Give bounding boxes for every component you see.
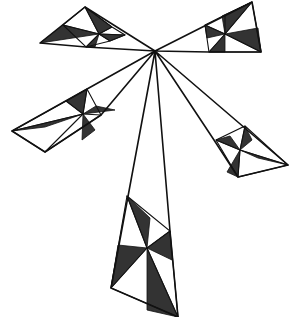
shaded-triangle bbox=[40, 25, 99, 43]
pinwheel-line bbox=[12, 114, 83, 131]
blade-right bbox=[155, 51, 288, 177]
shaded-triangle bbox=[83, 106, 115, 114]
blade-top-right bbox=[155, 2, 261, 52]
blade-left bbox=[12, 51, 155, 152]
pinwheel-line bbox=[240, 150, 288, 165]
blade-outline bbox=[155, 51, 288, 177]
pinwheel-line bbox=[83, 114, 101, 115]
blade-top-left bbox=[40, 7, 155, 51]
blades bbox=[12, 2, 288, 317]
pinwheel-diagram bbox=[0, 0, 290, 317]
shaded-triangle bbox=[225, 28, 261, 52]
diagram-svg bbox=[0, 0, 290, 317]
